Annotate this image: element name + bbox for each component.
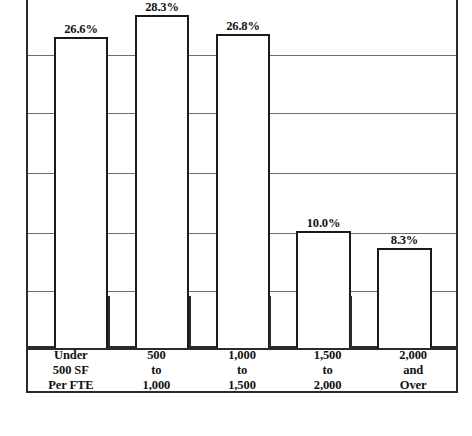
bar-1500-to-2000: 10.0% bbox=[296, 231, 351, 348]
bar-value-label: 10.0% bbox=[307, 216, 340, 231]
bar-value-label: 8.3% bbox=[391, 233, 418, 248]
category-label-500-to-1000: 500 to 1,000 bbox=[114, 350, 200, 391]
bar-value-label: 28.3% bbox=[145, 0, 178, 15]
axis-tick-separator bbox=[108, 296, 110, 348]
category-axis-labels: Under 500 SF Per FTE 500 to 1,000 1,000 … bbox=[26, 348, 458, 393]
bar-chart: 26.6% 28.3% 26.8% 10.0% 8.3% Under 500 S… bbox=[0, 0, 472, 436]
bar-value-label: 26.6% bbox=[64, 22, 97, 37]
bar-2000-and-over: 8.3% bbox=[377, 248, 432, 348]
bar-value-label: 26.8% bbox=[226, 19, 259, 34]
category-label-1500-to-2000: 1,500 to 2,000 bbox=[285, 350, 371, 391]
axis-tick-separator bbox=[189, 296, 191, 348]
axis-tick-separator bbox=[350, 296, 352, 348]
bar-500-to-1000: 28.3% bbox=[135, 15, 189, 348]
bar-1000-to-1500: 26.8% bbox=[216, 34, 270, 348]
axis-tick-separator bbox=[269, 296, 271, 348]
category-label-2000-and-over: 2,000 and Over bbox=[370, 350, 456, 391]
bars-layer: 26.6% 28.3% 26.8% 10.0% 8.3% bbox=[26, 0, 458, 348]
category-label-under-500-sf-per-fte: Under 500 SF Per FTE bbox=[28, 350, 114, 391]
category-label-1000-to-1500: 1,000 to 1,500 bbox=[199, 350, 285, 391]
bar-under-500-sf-per-fte: 26.6% bbox=[54, 37, 108, 348]
